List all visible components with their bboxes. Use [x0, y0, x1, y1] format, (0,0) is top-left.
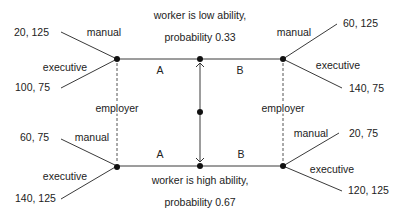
- payoff-high-A-executive: 140, 125: [15, 192, 56, 204]
- label-low-B-manual: manual: [277, 26, 311, 38]
- node-worker-low: [197, 56, 203, 62]
- payoff-high-B-manual: 20, 75: [349, 127, 378, 139]
- action-label-high-B: B: [237, 148, 244, 160]
- label-high-A-executive: executive: [43, 170, 88, 182]
- info-set-label-left: employer: [95, 102, 139, 114]
- node-employer-high-B: [280, 163, 286, 169]
- edge-high-A-manual: [61, 139, 117, 166]
- node-worker-high: [197, 163, 203, 169]
- payoff-low-B-executive: 140, 75: [349, 82, 384, 94]
- label-low-A-manual: manual: [87, 26, 121, 38]
- info-set-label-right: employer: [261, 102, 305, 114]
- nature-top-line2: probability 0.33: [164, 31, 235, 43]
- nature-bottom-line2: probability 0.67: [164, 196, 235, 208]
- node-employer-low-A: [114, 56, 120, 62]
- label-high-A-manual: manual: [75, 131, 109, 143]
- payoff-low-B-manual: 60, 125: [343, 17, 378, 29]
- label-low-B-executive: executive: [316, 59, 361, 71]
- label-high-B-manual: manual: [294, 127, 328, 139]
- node-employer-low-B: [280, 56, 286, 62]
- node-employer-high-A: [114, 164, 120, 170]
- action-label-low-A: A: [156, 64, 163, 76]
- game-tree-diagram: worker is low ability, probability 0.33 …: [0, 0, 405, 219]
- node-nature: [197, 109, 203, 115]
- label-low-A-executive: executive: [43, 61, 88, 73]
- action-label-high-A: A: [156, 148, 163, 160]
- nature-top-line1: worker is low ability,: [153, 9, 247, 21]
- payoff-low-A-executive: 100, 75: [15, 81, 50, 93]
- label-high-B-executive: executive: [310, 163, 355, 175]
- payoff-low-A-manual: 20, 125: [14, 26, 49, 38]
- nature-bottom-line1: worker is high ability,: [151, 174, 249, 186]
- payoff-high-A-manual: 60, 75: [20, 131, 49, 143]
- action-label-low-B: B: [236, 64, 243, 76]
- payoff-high-B-executive: 120, 125: [348, 184, 389, 196]
